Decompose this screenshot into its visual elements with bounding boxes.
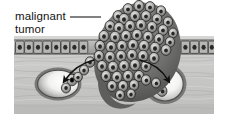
epithelial-cells-left xyxy=(16,41,88,53)
label-line-2: tumor xyxy=(15,23,45,35)
figure-root: malignant tumor xyxy=(0,0,229,125)
tumor-illustration: malignant tumor xyxy=(0,0,229,125)
malignant-tumor-label: malignant tumor xyxy=(15,10,101,35)
vessel-left xyxy=(35,68,82,101)
label-line-1: malignant xyxy=(15,10,66,22)
